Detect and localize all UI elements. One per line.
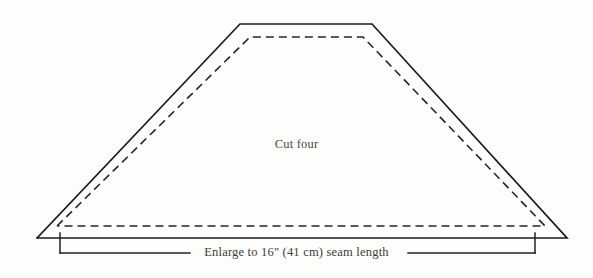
cut-four-label: Cut four xyxy=(0,137,593,152)
pattern-figure-page: Cut four Enlarge to 16" (41 cm) seam len… xyxy=(0,0,593,278)
cutting-line-outline xyxy=(37,24,567,238)
dimension-caption: Enlarge to 16" (41 cm) seam length xyxy=(0,245,593,260)
seam-line-outline xyxy=(57,37,545,226)
